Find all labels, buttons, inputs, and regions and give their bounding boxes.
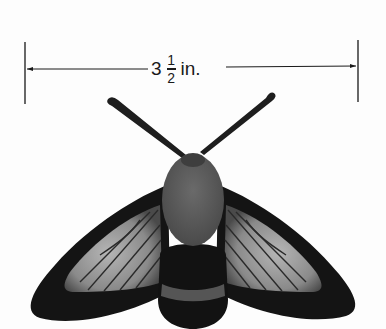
left-wing — [31, 185, 170, 321]
right-arrow-icon — [350, 64, 356, 68]
measurement-unit: in. — [181, 58, 201, 80]
left-arrow-icon — [27, 67, 33, 71]
abdomen — [158, 244, 228, 329]
moth-illustration — [0, 0, 386, 329]
fraction-numerator: 1 — [167, 53, 175, 67]
right-wing — [216, 185, 355, 319]
fraction-denominator: 2 — [167, 71, 175, 85]
measurement-label: 3 1 2 in. — [148, 52, 204, 86]
figure-canvas: 3 1 2 in. — [0, 0, 386, 329]
head — [181, 153, 205, 167]
measurement-fraction: 1 2 — [167, 53, 176, 84]
antennae — [107, 93, 276, 158]
measurement-whole: 3 — [151, 58, 162, 80]
right-line — [226, 66, 356, 67]
thorax — [162, 154, 224, 246]
